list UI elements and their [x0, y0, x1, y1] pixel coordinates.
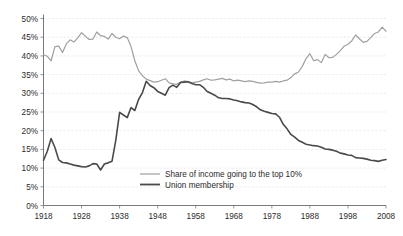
legend-label-income-share: Share of income going to the top 10% — [165, 170, 302, 179]
x-axis-tick-labels: 1918192819381948195819681978198819982008 — [34, 212, 395, 221]
y-tick-label: 40% — [22, 52, 38, 61]
y-tick-label: 0% — [26, 202, 38, 211]
x-tick-label: 1968 — [225, 212, 244, 221]
y-tick-label: 10% — [22, 164, 38, 173]
y-tick-label: 15% — [22, 145, 38, 154]
y-tick-label: 30% — [22, 89, 38, 98]
chart-legend: Share of income going to the top 10%Unio… — [140, 170, 302, 190]
x-tick-label: 2008 — [377, 212, 396, 221]
x-tick-label: 1928 — [72, 212, 91, 221]
series-line-income-share — [44, 27, 387, 84]
x-tick-label: 1938 — [111, 212, 130, 221]
series-line-union-membership — [44, 81, 387, 170]
y-axis-tick-labels: 0%5%10%15%20%25%30%35%40%45%50% — [22, 15, 38, 211]
y-tick-label: 25% — [22, 108, 38, 117]
axes — [41, 15, 387, 209]
data-series — [44, 27, 387, 170]
y-tick-label: 5% — [26, 183, 38, 192]
x-tick-label: 1958 — [187, 212, 206, 221]
gridlines — [44, 19, 387, 187]
x-tick-label: 1918 — [34, 212, 53, 221]
y-tick-label: 45% — [22, 33, 38, 42]
x-tick-label: 1998 — [339, 212, 358, 221]
chart-container: 0%5%10%15%20%25%30%35%40%45%50% 19181928… — [0, 0, 403, 236]
y-tick-label: 35% — [22, 71, 38, 80]
x-tick-label: 1948 — [149, 212, 168, 221]
x-tick-label: 1988 — [301, 212, 320, 221]
y-tick-label: 20% — [22, 127, 38, 136]
legend-label-union-membership: Union membership — [165, 181, 234, 190]
x-tick-label: 1978 — [263, 212, 282, 221]
line-chart: 0%5%10%15%20%25%30%35%40%45%50% 19181928… — [0, 0, 403, 236]
y-tick-label: 50% — [22, 15, 38, 24]
